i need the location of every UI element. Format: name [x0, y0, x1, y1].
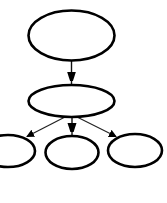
- child-ellipse[interactable]: [29, 85, 115, 117]
- leaf-right-ellipse[interactable]: [108, 134, 162, 167]
- node-root[interactable]: [29, 11, 115, 61]
- edge-child-to-leaf-left: [27, 117, 65, 137]
- leaf-middle-ellipse[interactable]: [46, 136, 99, 169]
- leaf-left-ellipse[interactable]: [0, 135, 35, 167]
- tree-diagram: [0, 0, 167, 203]
- node-leaf-middle[interactable]: [46, 136, 99, 169]
- node-leaf-left[interactable]: [0, 135, 35, 167]
- node-child[interactable]: [29, 85, 115, 117]
- edge-child-to-leaf-right: [77, 117, 116, 137]
- nodes: [0, 11, 162, 170]
- node-leaf-right[interactable]: [108, 134, 162, 167]
- root-ellipse[interactable]: [29, 11, 115, 61]
